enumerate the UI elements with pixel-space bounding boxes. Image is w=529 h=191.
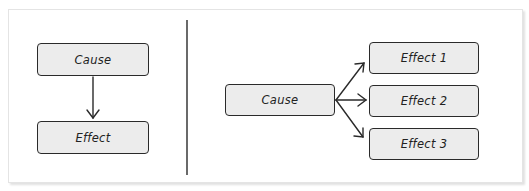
arrow-cause-to-effect1: [336, 63, 364, 100]
node-label: Cause: [75, 53, 112, 67]
right-effect1-node: Effect 1: [369, 42, 479, 74]
right-cause-node: Cause: [225, 84, 335, 116]
left-effect-node: Effect: [37, 121, 149, 154]
node-label: Effect: [75, 131, 110, 145]
node-label: Cause: [262, 93, 299, 107]
right-effect3-node: Effect 3: [369, 128, 479, 160]
arrow-cause-to-effect: [87, 77, 99, 118]
node-label: Effect 2: [401, 94, 448, 108]
arrow-cause-to-effect2: [336, 94, 366, 106]
left-cause-node: Cause: [37, 43, 149, 76]
node-label: Effect 1: [401, 51, 448, 65]
node-label: Effect 3: [401, 137, 448, 151]
right-effect2-node: Effect 2: [369, 85, 479, 117]
